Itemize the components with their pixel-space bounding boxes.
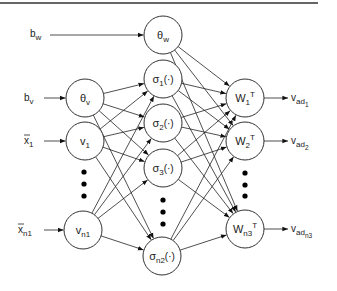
ellipsis-dot bbox=[160, 221, 165, 226]
network-nodes: θvv1vn1θwσ1(·)σ2(·)σ3(·)σn2(·)W1TW2TWn3T bbox=[64, 16, 264, 275]
connection-edge bbox=[103, 147, 145, 161]
node-sigma2: σ2(·) bbox=[144, 104, 182, 142]
node-theta_v: θv bbox=[66, 79, 104, 117]
node-sigman2: σn2(·) bbox=[143, 237, 181, 275]
ellipsis-dot bbox=[160, 197, 165, 202]
output-label-vad1: vad1 bbox=[291, 92, 309, 108]
connection-edge bbox=[178, 91, 229, 130]
node-sigma3: σ3(·) bbox=[144, 149, 182, 187]
node-v1: v1 bbox=[66, 122, 104, 160]
input-label-bv: bv bbox=[24, 92, 34, 106]
node-sigma1: σ1(·) bbox=[144, 60, 182, 98]
connection-edge bbox=[98, 180, 148, 219]
node-theta_w: θw bbox=[144, 16, 182, 54]
output-ellipsis bbox=[242, 170, 247, 198]
ellipsis-dot bbox=[242, 193, 247, 198]
input-label-x1: x1 bbox=[24, 135, 34, 149]
ellipsis-dot bbox=[81, 169, 86, 174]
node-W2: W2T bbox=[226, 122, 264, 160]
connection-edge bbox=[182, 83, 227, 93]
input-label-bw: bw bbox=[30, 28, 42, 42]
connection-edge bbox=[175, 50, 234, 126]
connection-edge bbox=[182, 127, 226, 137]
connection-edge bbox=[180, 235, 226, 250]
ellipsis-dot bbox=[160, 209, 165, 214]
connection-edge bbox=[104, 84, 145, 94]
input-ellipsis bbox=[81, 169, 86, 198]
connection-edge bbox=[92, 96, 154, 213]
neural-network-diagram: θvv1vn1θwσ1(·)σ2(·)σ3(·)σn2(·)W1TW2TWn3T… bbox=[0, 0, 337, 291]
connection-edge bbox=[94, 139, 151, 215]
hidden-ellipsis bbox=[160, 197, 165, 226]
output-label-vad2: vad2 bbox=[291, 135, 309, 151]
ellipsis-dot bbox=[242, 182, 247, 187]
connection-edge bbox=[178, 111, 231, 156]
connection-edge bbox=[100, 91, 148, 129]
node-vn1: vn1 bbox=[64, 211, 102, 249]
node-W1: W1T bbox=[226, 79, 264, 117]
input-label-xn1: xn1 bbox=[18, 224, 32, 238]
connection-edge bbox=[101, 236, 144, 250]
node-Wn3: Wn3T bbox=[226, 210, 264, 248]
output-label-vadn3: vadn3 bbox=[291, 223, 313, 239]
connection-edge bbox=[178, 47, 229, 87]
connection-edge bbox=[181, 104, 226, 118]
ellipsis-dot bbox=[242, 170, 247, 175]
connection-edge bbox=[172, 96, 236, 212]
ellipsis-dot bbox=[81, 181, 86, 186]
connection-edge bbox=[104, 127, 145, 136]
ellipsis-dot bbox=[81, 193, 86, 198]
